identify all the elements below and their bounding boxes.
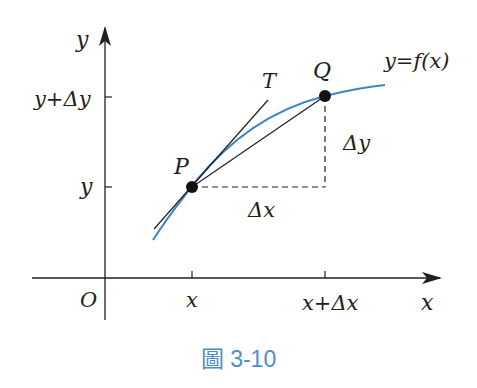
function-label: y=f(x) <box>383 49 449 73</box>
y-tick-label-y-plus-dy: y+Δy <box>33 87 92 111</box>
dy-label: Δy <box>342 131 371 155</box>
origin-label: O <box>80 288 97 312</box>
x-tick-label-x-plus-dx: x+Δx <box>302 291 359 315</box>
x-axis-label: x <box>421 290 434 315</box>
figure-caption: 圖 3-10 <box>0 340 477 374</box>
derivative-diagram: y y+Δy y O x x+Δx x P Q T y=f(x) Δx Δy <box>0 0 477 388</box>
dx-label: Δx <box>247 198 275 222</box>
y-tick-label-y-plus-dy-text: y+Δy <box>33 87 92 111</box>
y-axis-label: y <box>75 27 89 52</box>
x-tick-label-x: x <box>186 288 198 312</box>
point-p <box>186 181 198 193</box>
point-q-label: Q <box>313 58 331 83</box>
tangent-label: T <box>262 69 278 93</box>
point-q <box>319 90 331 102</box>
y-tick-label-y: y <box>79 174 93 199</box>
secant-line <box>192 96 325 187</box>
point-p-label: P <box>173 154 190 179</box>
